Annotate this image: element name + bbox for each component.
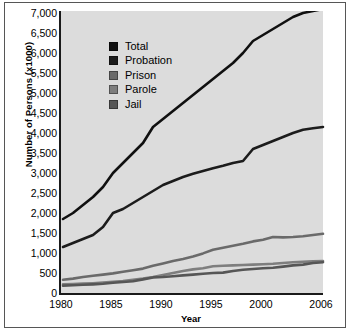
legend-swatch-icon [109,100,118,109]
line-prison [63,234,323,280]
legend-swatch-icon [109,85,118,94]
y-tick-label: 6,500 [31,28,57,38]
legend-swatch-icon [109,56,118,65]
line-total [63,11,323,219]
x-tick-label: 1980 [49,298,72,310]
y-tick-label: 3,500 [31,148,57,158]
x-axis-label: Year [59,313,323,324]
legend-label: Prison [125,70,156,81]
line-parole [63,261,323,284]
series-lines [61,11,325,295]
legend-label: Jail [125,99,142,110]
y-tick-label: 3,000 [31,168,57,178]
y-tick-label: 2,500 [31,188,57,198]
x-axis-tick-labels: 198019851990199520002006 [59,298,325,312]
chart-legend: TotalProbationPrisonParoleJail [109,39,172,112]
y-axis-tick-labels: 05001,0001,5002,0002,5003,0003,5004,0004… [15,3,57,295]
y-tick-label: 7,000 [31,8,57,18]
legend-item-probation: Probation [109,54,172,69]
y-tick-label: 4,000 [31,128,57,138]
y-tick-label: 1,500 [31,228,57,238]
x-tick-label: 2006 [309,298,332,310]
y-tick-label: 1,000 [31,248,57,258]
x-tick-label: 1985 [99,298,122,310]
y-tick-label: 4,500 [31,108,57,118]
legend-label: Parole [125,84,157,95]
legend-label: Probation [125,55,172,66]
legend-item-total: Total [109,39,172,54]
plot-area [59,11,323,295]
legend-swatch-icon [109,71,118,80]
legend-label: Total [125,41,148,52]
y-tick-label: 500 [39,268,57,278]
y-tick-label: 5,000 [31,88,57,98]
x-tick-label: 1995 [199,298,222,310]
x-tick-label: 2000 [249,298,272,310]
legend-item-prison: Prison [109,68,172,83]
chart-figure: Number of Persons (x1000) 05001,0001,500… [4,2,346,328]
x-tick-label: 1990 [149,298,172,310]
y-tick-label: 6,000 [31,48,57,58]
y-tick-label: 0 [51,288,57,298]
y-tick-label: 5,500 [31,68,57,78]
legend-item-jail: Jail [109,97,172,112]
legend-swatch-icon [109,42,118,51]
y-tick-label: 2,000 [31,208,57,218]
legend-item-parole: Parole [109,83,172,98]
